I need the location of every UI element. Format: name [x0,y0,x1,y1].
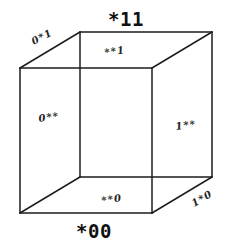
cube-edge-depth-top-right [152,32,212,68]
label-bottom-star00: *00 [76,222,112,241]
label-top-star11: *11 [108,10,144,29]
cube-diagram-figure: *11 *00 0*1 1*0 0** 1** **1 **0 [0,0,246,250]
cube-edge-depth-bottom-left [20,177,80,213]
